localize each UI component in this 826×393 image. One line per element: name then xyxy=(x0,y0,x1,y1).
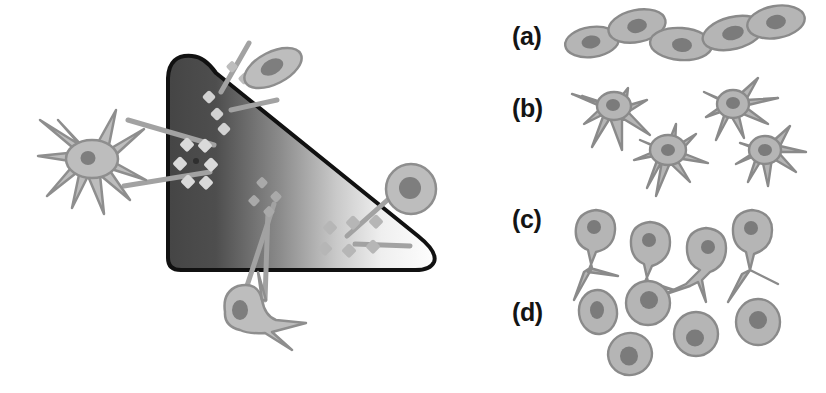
cell-round-right xyxy=(386,164,436,214)
nucleus xyxy=(399,177,421,199)
panel-b xyxy=(572,78,806,196)
nucleus xyxy=(620,347,638,366)
nucleus xyxy=(661,144,675,156)
nucleus xyxy=(744,221,758,235)
connector-to-bipolar-2 xyxy=(265,212,268,300)
connector-to-round-2 xyxy=(355,244,410,246)
nucleus xyxy=(640,291,658,309)
figure-root: (a) (b) (c) (d) xyxy=(0,0,826,393)
panels-svg xyxy=(500,0,826,393)
nucleus xyxy=(587,220,601,234)
panel-d xyxy=(576,281,780,380)
panel-a xyxy=(563,1,807,62)
gradient-wedge-diagram xyxy=(0,0,500,393)
nucleus xyxy=(590,301,604,319)
cell-stellate-left xyxy=(38,110,146,214)
nucleus xyxy=(701,240,715,254)
nucleus xyxy=(726,97,740,109)
left-diagram-svg xyxy=(0,0,500,393)
nucleus xyxy=(758,144,772,156)
nucleus xyxy=(686,330,704,347)
nucleus xyxy=(749,311,767,329)
nucleus xyxy=(606,99,620,111)
nucleus xyxy=(81,151,96,165)
morphology-panels: (a) (b) (c) (d) xyxy=(500,0,826,393)
nucleus xyxy=(232,300,248,320)
nucleus xyxy=(642,233,656,247)
